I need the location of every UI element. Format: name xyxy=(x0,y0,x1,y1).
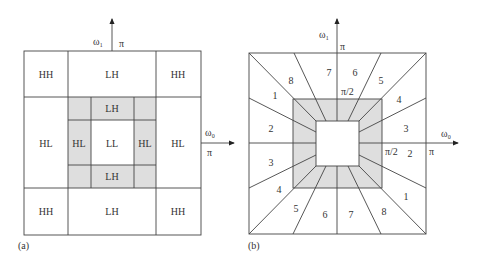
inner-square xyxy=(316,121,359,166)
region-top-8: 8 xyxy=(289,75,294,86)
panel-b: ω₁ π π/2 ω₀ π π/2 8 7 6 5 1 2 3 4 4 3 2 … xyxy=(248,19,458,252)
panel-a: ω₁ π ω₀ π HH LH HH LH HL HL LL HL HL LH … xyxy=(18,19,234,252)
cell-lh-inner-bottom: LH xyxy=(105,171,118,182)
cell-ll: LL xyxy=(106,138,118,149)
cell-lh-top: LH xyxy=(105,69,118,80)
axis-h-tick: π xyxy=(429,146,434,157)
cell-hh-br: HH xyxy=(171,206,185,217)
region-bottom-7: 7 xyxy=(349,209,354,220)
region-left-3: 3 xyxy=(269,157,274,168)
axis-v-tick: π xyxy=(119,38,124,49)
region-left-2: 2 xyxy=(269,123,274,134)
region-right-2: 2 xyxy=(408,148,413,159)
region-top-6: 6 xyxy=(353,67,358,78)
cell-hl-right: HL xyxy=(171,138,184,149)
axis-h-label: ω₀ xyxy=(205,127,216,138)
axis-h-half: π/2 xyxy=(385,146,398,157)
axis-v-label: ω₁ xyxy=(319,29,329,40)
cell-hh-tr: HH xyxy=(171,69,185,80)
cell-lh-bottom: LH xyxy=(105,206,118,217)
axis-v-tick: π xyxy=(340,41,345,52)
cell-hh-bl: HH xyxy=(39,206,53,217)
axis-h-tick: π xyxy=(207,147,212,158)
region-left-1: 1 xyxy=(273,90,278,101)
region-bottom-8: 8 xyxy=(382,206,387,217)
region-left-4: 4 xyxy=(277,184,282,195)
axis-v-label: ω₁ xyxy=(93,36,103,47)
caption-a: (a) xyxy=(18,240,29,252)
axis-v-half: π/2 xyxy=(341,86,354,97)
cell-hh-tl: HH xyxy=(39,69,53,80)
cell-lh-inner-top: LH xyxy=(105,103,118,114)
figure: ω₁ π ω₀ π HH LH HH LH HL HL LL HL HL LH … xyxy=(0,0,480,261)
region-right-4: 4 xyxy=(397,94,402,105)
region-top-5: 5 xyxy=(379,75,384,86)
cell-hl-left: HL xyxy=(39,138,52,149)
region-bottom-5: 5 xyxy=(294,203,299,214)
region-right-1: 1 xyxy=(404,191,409,202)
axis-h-label: ω₀ xyxy=(441,128,452,139)
region-bottom-6: 6 xyxy=(323,209,328,220)
caption-b: (b) xyxy=(248,240,260,252)
region-top-7: 7 xyxy=(327,67,332,78)
cell-hl-inner-left: HL xyxy=(72,138,85,149)
region-right-3: 3 xyxy=(404,123,409,134)
cell-hl-inner-right: HL xyxy=(138,138,151,149)
